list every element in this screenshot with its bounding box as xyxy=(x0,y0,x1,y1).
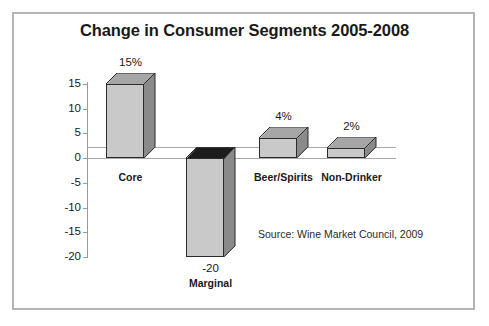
bar-value-label: -20 xyxy=(186,262,235,274)
chart-frame-border xyxy=(12,12,475,310)
bar-value-label: 4% xyxy=(259,110,308,122)
y-axis-tick xyxy=(83,257,88,258)
y-axis-tick-label: -10 xyxy=(49,202,81,214)
zero-line-baseline xyxy=(88,158,396,159)
bar-front-face xyxy=(259,138,297,158)
y-axis-tick-label: -15 xyxy=(49,226,81,238)
y-axis-tick-label: 15 xyxy=(49,78,81,90)
bar-value-label: 2% xyxy=(327,120,376,132)
y-axis-tick-label-wrap: -20 xyxy=(45,251,81,263)
y-axis-tick-label-wrap: 5 xyxy=(45,127,81,139)
chart-container: Change in Consumer Segments 2005-2008 Pe… xyxy=(0,0,489,326)
y-axis-tick-label-wrap: -15 xyxy=(45,226,81,238)
y-axis-tick xyxy=(83,208,88,209)
bar-front-face xyxy=(327,148,365,158)
bar-side-face xyxy=(224,147,235,257)
category-label-core: Core xyxy=(76,171,186,183)
bar-value-label: 15% xyxy=(106,56,155,68)
y-axis-tick-label-wrap: 10 xyxy=(45,103,81,115)
y-axis-tick-label-wrap: -10 xyxy=(45,202,81,214)
bar-side-face xyxy=(144,73,155,158)
source-annotation: Source: Wine Market Council, 2009 xyxy=(258,228,423,240)
y-axis-tick xyxy=(83,109,88,110)
bar-front-face xyxy=(106,84,144,158)
y-axis-tick-label: 10 xyxy=(49,103,81,115)
y-axis-tick-label: 5 xyxy=(49,127,81,139)
category-label-marginal: Marginal xyxy=(156,277,266,289)
y-axis-tick xyxy=(83,133,88,134)
y-axis-tick-label-wrap: 15 xyxy=(45,78,81,90)
y-axis-tick-label: -20 xyxy=(49,251,81,263)
category-label-non-drinker: Non-Drinker xyxy=(297,171,407,183)
y-axis-tick-label: 0 xyxy=(49,152,81,164)
bar-front-face xyxy=(186,158,224,257)
y-axis-tick xyxy=(83,84,88,85)
y-axis-tick-label-wrap: 0 xyxy=(45,152,81,164)
y-axis-tick xyxy=(83,232,88,233)
chart-title: Change in Consumer Segments 2005-2008 xyxy=(0,21,489,40)
